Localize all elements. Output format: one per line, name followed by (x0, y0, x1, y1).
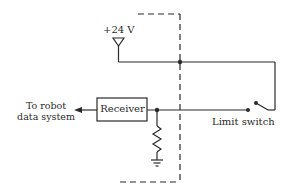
junction-dot-top (178, 60, 182, 64)
switch-contact-pivot (254, 101, 258, 105)
output-label-line2: data system (14, 111, 78, 122)
output-label-line1: To robot (14, 100, 78, 111)
pulldown-resistor-icon (153, 110, 161, 160)
supply-triangle-icon (113, 38, 124, 62)
limit-switch-label: Limit switch (212, 117, 275, 127)
switch-contact-fixed (246, 108, 250, 112)
limit-switch-icon (256, 103, 275, 110)
circuit-schematic (0, 0, 290, 193)
receiver-label: Receiver (98, 104, 147, 114)
junction-dot-resistor (155, 108, 159, 112)
ground-icon (151, 160, 163, 166)
supply-voltage-label: +24 V (103, 25, 135, 35)
output-destination-label: To robot data system (14, 100, 78, 122)
